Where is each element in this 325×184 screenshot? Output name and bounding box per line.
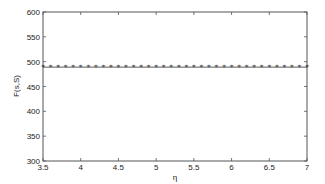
star-marker-icon: *	[252, 63, 256, 72]
star-marker-icon: *	[139, 63, 143, 72]
star-marker-icon: *	[56, 63, 60, 72]
x-tick-label: 6	[229, 163, 234, 172]
y-tick-label: 550	[27, 33, 41, 42]
x-axis-label: η	[173, 173, 177, 182]
x-tick-label: 4	[78, 163, 83, 172]
star-marker-icon: *	[207, 63, 211, 72]
x-tick-label: 6.5	[264, 163, 276, 172]
star-marker-icon: *	[169, 63, 173, 72]
star-marker-icon: *	[222, 63, 226, 72]
star-marker-icon: *	[177, 63, 181, 72]
star-marker-icon: *	[94, 63, 98, 72]
y-tick-label: 450	[27, 83, 41, 92]
plot-frame	[43, 12, 307, 161]
star-marker-icon: *	[101, 63, 105, 72]
star-marker-icon: *	[298, 63, 302, 72]
star-marker-icon: *	[109, 63, 113, 72]
x-tick-label: 4.5	[113, 163, 125, 172]
star-marker-icon: *	[117, 63, 121, 72]
star-marker-icon: *	[215, 63, 219, 72]
y-axis-label: F(s,S)	[12, 75, 21, 97]
star-marker-icon: *	[290, 63, 294, 72]
star-marker-icon: *	[200, 63, 204, 72]
x-tick-label: 5.5	[188, 163, 200, 172]
data-series: ************************************	[41, 63, 309, 72]
y-tick-label: 500	[27, 58, 41, 67]
star-marker-icon: *	[192, 63, 196, 72]
star-marker-icon: *	[305, 63, 309, 72]
star-marker-icon: *	[79, 63, 83, 72]
y-tick-label: 300	[27, 157, 41, 166]
star-marker-icon: *	[132, 63, 136, 72]
star-marker-icon: *	[245, 63, 249, 72]
x-axis-ticks: 3.544.555.566.57	[37, 12, 309, 172]
star-marker-icon: *	[184, 63, 188, 72]
star-marker-icon: *	[275, 63, 279, 72]
x-tick-label: 5	[154, 163, 159, 172]
star-marker-icon: *	[64, 63, 68, 72]
star-marker-icon: *	[86, 63, 90, 72]
star-marker-icon: *	[49, 63, 53, 72]
star-marker-icon: *	[230, 63, 234, 72]
line-chart: 3.544.555.566.57 300350400450500550600 *…	[0, 0, 325, 184]
star-marker-icon: *	[41, 63, 45, 72]
star-marker-icon: *	[71, 63, 75, 72]
y-axis-ticks: 300350400450500550600	[27, 8, 307, 166]
star-marker-icon: *	[237, 63, 241, 72]
star-marker-icon: *	[282, 63, 286, 72]
star-marker-icon: *	[124, 63, 128, 72]
y-tick-label: 350	[27, 132, 41, 141]
star-marker-icon: *	[154, 63, 158, 72]
star-marker-icon: *	[162, 63, 166, 72]
star-marker-icon: *	[260, 63, 264, 72]
plot-area-border	[43, 12, 307, 161]
y-tick-label: 600	[27, 8, 41, 17]
star-marker-icon: *	[147, 63, 151, 72]
x-tick-label: 7	[305, 163, 310, 172]
star-marker-icon: *	[267, 63, 271, 72]
y-tick-label: 400	[27, 107, 41, 116]
